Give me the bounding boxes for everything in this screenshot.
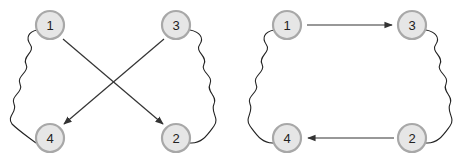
arrow-3-to-4 <box>64 39 164 124</box>
diagram-canvas: 1 3 4 2 1 3 4 <box>0 0 460 166</box>
svg-text:3: 3 <box>172 18 179 33</box>
right-diagram: 1 3 4 2 <box>248 11 452 152</box>
wavy-link-1-4 <box>248 30 274 143</box>
node-4: 4 <box>36 124 64 152</box>
svg-text:1: 1 <box>283 18 290 33</box>
wavy-link-3-2 <box>190 30 216 143</box>
svg-text:2: 2 <box>408 131 415 146</box>
node-2: 2 <box>398 124 426 152</box>
node-4: 4 <box>273 124 301 152</box>
svg-text:3: 3 <box>408 18 415 33</box>
node-2: 2 <box>162 124 190 152</box>
svg-text:2: 2 <box>172 131 179 146</box>
svg-text:1: 1 <box>46 18 53 33</box>
node-1: 1 <box>273 11 301 39</box>
wavy-link-1-4 <box>10 30 37 143</box>
node-1: 1 <box>36 11 64 39</box>
svg-text:4: 4 <box>46 131 53 146</box>
left-diagram: 1 3 4 2 <box>10 11 216 152</box>
node-3: 3 <box>398 11 426 39</box>
node-3: 3 <box>162 11 190 39</box>
svg-text:4: 4 <box>283 131 290 146</box>
wavy-link-3-2 <box>426 30 452 143</box>
arrow-1-to-2 <box>63 39 163 124</box>
